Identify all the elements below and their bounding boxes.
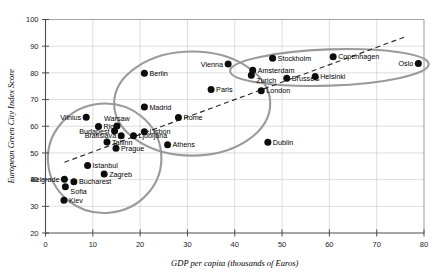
x-tick-label: 70 — [373, 240, 381, 249]
data-point-marker — [249, 67, 256, 74]
data-point-label: Paris — [216, 85, 233, 94]
x-tick-label: 10 — [89, 240, 97, 249]
y-tick-label: 40 — [30, 175, 38, 184]
data-point-marker — [112, 145, 119, 152]
data-point-label: Amsterdam — [258, 66, 295, 75]
x-tick-label: 30 — [183, 240, 191, 249]
data-point-label: London — [266, 86, 290, 95]
data-point-marker — [113, 122, 120, 129]
data-point-marker — [208, 86, 215, 93]
data-points-group: VilniusRigaBudapestBratislavaWarsawTalli… — [31, 52, 422, 204]
y-tick-label: 50 — [30, 149, 38, 158]
data-point-marker — [258, 87, 265, 94]
x-tick-label: 60 — [325, 240, 333, 249]
data-point-label: Helsinki — [320, 72, 346, 81]
data-point-marker — [225, 61, 232, 68]
y-tick-label: 20 — [30, 229, 38, 238]
x-tick-label: 50 — [278, 240, 286, 249]
data-point-marker — [61, 176, 68, 183]
data-point-marker — [84, 162, 91, 169]
data-point-marker — [283, 75, 290, 82]
y-tick-label: 100 — [26, 15, 39, 24]
y-tick-label: 80 — [30, 69, 38, 78]
data-point-label: Prague — [121, 144, 144, 153]
data-point: Stockholm — [269, 54, 311, 63]
data-point-label: Zurich — [256, 76, 276, 85]
data-point-marker — [70, 178, 77, 185]
x-tick-label: 80 — [420, 240, 428, 249]
data-point-marker — [60, 197, 67, 204]
y-tick-label: 90 — [30, 42, 38, 51]
data-point-label: Dublin — [273, 138, 293, 147]
data-point-marker — [164, 141, 171, 148]
european-green-city-index-chart: VilniusRigaBudapestBratislavaWarsawTalli… — [0, 0, 439, 280]
data-point: Brussels — [283, 74, 319, 83]
data-point-marker — [141, 128, 148, 135]
data-point-label: Vienna — [201, 60, 223, 69]
data-point-label: Zagreb — [109, 170, 132, 179]
data-point-marker — [175, 114, 182, 121]
data-point-label: Athens — [173, 140, 196, 149]
y-tick-label: 30 — [30, 202, 38, 211]
data-point-label: Stockholm — [278, 54, 312, 63]
data-point: Madrid — [141, 103, 171, 112]
data-point-marker — [104, 138, 111, 145]
y-axis-title: European Green City Index Score — [6, 69, 16, 185]
data-point-marker — [83, 114, 90, 121]
data-point-label: Bucharest — [79, 177, 111, 186]
data-point: Kiev — [60, 196, 83, 205]
x-axis-title: GDP per capita (thousands of Euros) — [171, 258, 298, 268]
data-point: London — [258, 86, 290, 95]
data-point-marker — [62, 183, 69, 190]
data-point: Bucharest — [70, 177, 111, 186]
data-point-marker — [269, 55, 276, 62]
data-point-marker — [264, 139, 271, 146]
data-point-label: Vilnius — [60, 113, 81, 122]
x-tick-label: 0 — [43, 240, 47, 249]
scatter-plot-svg: VilniusRigaBudapestBratislavaWarsawTalli… — [0, 0, 439, 280]
data-point: Prague — [112, 144, 144, 153]
data-point: Berlin — [141, 69, 168, 78]
data-point: Oslo — [399, 59, 422, 68]
data-point: Copenhagen — [330, 52, 380, 61]
data-point-marker — [141, 104, 148, 111]
data-point-label: Oslo — [399, 59, 414, 68]
data-point: Athens — [164, 140, 195, 149]
data-point-label: Warsaw — [104, 114, 130, 123]
data-point-marker — [415, 60, 422, 67]
data-point-label: Madrid — [149, 103, 171, 112]
data-point-label: Copenhagen — [338, 52, 379, 61]
data-point: Lisbon — [141, 127, 171, 136]
y-tick-label: 70 — [30, 95, 38, 104]
data-point-label: Rome — [183, 113, 202, 122]
data-point-marker — [130, 132, 137, 139]
data-point: Paris — [208, 85, 233, 94]
data-point-label: Lisbon — [149, 127, 170, 136]
data-point-marker — [141, 70, 148, 77]
data-point-marker — [330, 53, 337, 60]
data-point: Rome — [175, 113, 203, 122]
data-point-label: Kiev — [69, 196, 83, 205]
y-tick-label: 60 — [30, 122, 38, 131]
data-point: Vienna — [201, 60, 232, 69]
data-point: Dublin — [264, 138, 293, 147]
data-point-label: Brussels — [292, 74, 320, 83]
x-tick-label: 40 — [231, 240, 239, 249]
data-point-label: Berlin — [149, 69, 167, 78]
x-tick-label: 20 — [136, 240, 144, 249]
data-point: Vilnius — [60, 113, 90, 122]
